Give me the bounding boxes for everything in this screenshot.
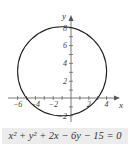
x-axis: −6 −4 −2 2 4 x <box>8 96 123 111</box>
y-tick-label: 6 <box>63 41 67 50</box>
circle-graph: −6 −4 −2 2 4 x 8 6 4 2 −2 y <box>0 0 131 124</box>
y-axis-label: y <box>61 11 66 21</box>
x-tick-label: −2 <box>48 100 57 109</box>
x-tick-label: 4 <box>105 100 109 109</box>
y-tick-label: 4 <box>63 59 67 68</box>
equation-text: x² + y² + 2x − 6y − 15 = 0 <box>9 130 122 141</box>
x-tick-label: −6 <box>13 100 22 109</box>
x-axis-label: x <box>118 100 123 110</box>
y-tick-label: 2 <box>63 77 67 86</box>
equation-caption: x² + y² + 2x − 6y − 15 = 0 <box>2 128 128 144</box>
circle-curve <box>18 27 107 116</box>
y-tick-label: 8 <box>63 24 67 33</box>
